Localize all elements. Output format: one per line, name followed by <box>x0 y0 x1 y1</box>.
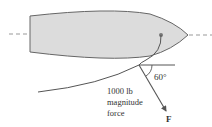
angle-label: 60° <box>154 72 167 82</box>
boat-hull <box>30 11 188 58</box>
force-vector-label: F <box>166 114 172 124</box>
force-magnitude-line1: 1000 lb <box>107 86 133 96</box>
force-magnitude-line2: magnitude <box>107 97 143 107</box>
boat-force-diagram: 60° 1000 lb magnitude force F <box>0 0 212 127</box>
force-magnitude-line3: force <box>107 108 125 118</box>
angle-arc <box>146 65 152 76</box>
